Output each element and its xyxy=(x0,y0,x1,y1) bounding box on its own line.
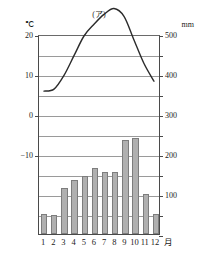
month-label: 10 xyxy=(130,238,139,247)
temperature-line xyxy=(39,36,159,233)
left-axis-unit-label: ℃ xyxy=(25,20,34,29)
month-label: 1 xyxy=(41,238,45,247)
left-axis-label: 10 xyxy=(25,72,33,80)
month-label: 3 xyxy=(61,238,65,247)
right-axis-tick xyxy=(159,216,163,217)
right-axis-label: 300 xyxy=(165,112,177,120)
right-axis-tick xyxy=(159,176,163,177)
right-axis-label: 500 xyxy=(165,32,177,40)
right-axis-tick xyxy=(159,56,163,57)
figure-marker: (ア) xyxy=(0,8,198,19)
right-axis-tick xyxy=(159,36,163,37)
right-axis-tick xyxy=(159,196,163,197)
month-label: 4 xyxy=(71,238,75,247)
right-axis-tick xyxy=(159,156,163,157)
right-axis-tick xyxy=(159,236,163,237)
right-axis-label: 100 xyxy=(165,192,177,200)
temperature-path xyxy=(44,8,154,91)
left-axis-label: 0 xyxy=(29,112,33,120)
right-axis-label: 200 xyxy=(165,152,177,160)
month-label: 12 xyxy=(151,238,160,247)
month-label: 9 xyxy=(122,238,126,247)
right-axis-tick xyxy=(159,116,163,117)
left-axis-label: −10 xyxy=(20,152,33,160)
month-label: 6 xyxy=(92,238,96,247)
month-label: 5 xyxy=(82,238,86,247)
x-axis-unit-label: 月 xyxy=(164,238,173,247)
plot-area: 403020100−10 100200300400500 xyxy=(38,35,160,235)
left-axis-label: 20 xyxy=(25,32,33,40)
month-label: 7 xyxy=(102,238,106,247)
right-axis-tick xyxy=(159,136,163,137)
right-axis-tick xyxy=(159,76,163,77)
climate-chart: (ア) ℃ mm 403020100−10 100200300400500 12… xyxy=(0,0,198,262)
month-axis-labels: 123456789101112 xyxy=(38,238,160,252)
right-axis-unit-label: mm xyxy=(182,20,194,29)
right-axis-tick xyxy=(159,96,163,97)
month-label: 8 xyxy=(112,238,116,247)
month-label: 2 xyxy=(51,238,55,247)
month-label: 11 xyxy=(141,238,149,247)
right-axis-label: 400 xyxy=(165,72,177,80)
